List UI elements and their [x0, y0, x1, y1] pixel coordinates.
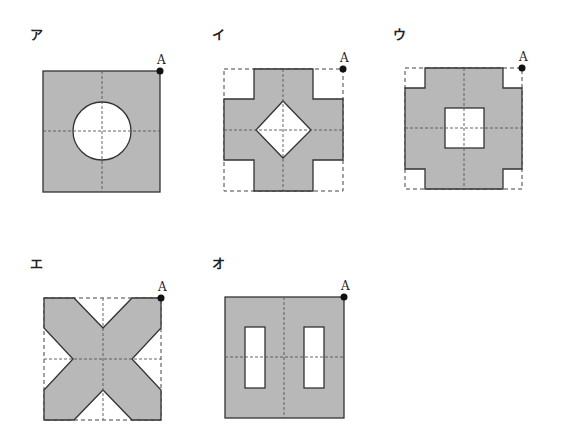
- point-a-label: A: [518, 50, 528, 64]
- point-a-marker: [340, 66, 347, 73]
- point-a-marker: [341, 294, 348, 301]
- point-a-label: A: [157, 280, 167, 294]
- point-a-marker: [519, 65, 526, 72]
- point-a-label: A: [156, 53, 166, 67]
- figure-e: A: [44, 280, 167, 420]
- point-a-label: A: [339, 51, 349, 65]
- figure-u: A: [405, 50, 528, 189]
- figure-o: A: [225, 279, 350, 418]
- figure-a: A: [43, 53, 166, 192]
- point-a-marker: [157, 68, 164, 75]
- figures-canvas: .fill { fill:#b8b8b8; stroke:#333; strok…: [0, 0, 564, 446]
- figure-i: A: [224, 51, 349, 191]
- point-a-marker: [158, 295, 165, 302]
- point-a-label: A: [340, 279, 350, 293]
